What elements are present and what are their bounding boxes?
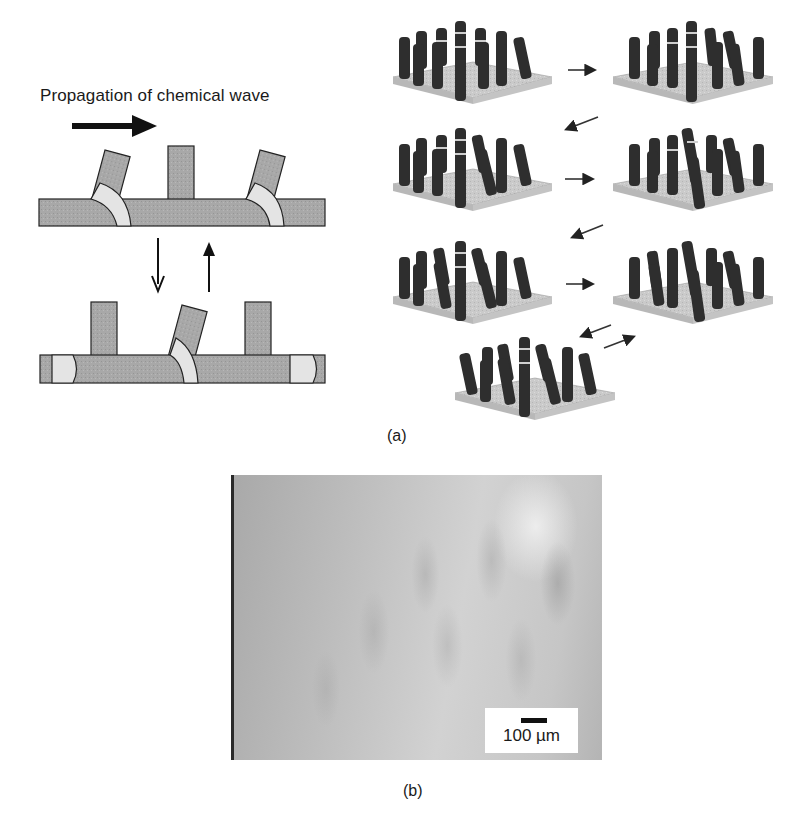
- pillar-array-2: [613, 21, 773, 104]
- pillar-array-4: [613, 127, 773, 211]
- panel-a-label: (a): [387, 427, 407, 445]
- bottom-state-schematic: [40, 302, 325, 383]
- scale-bar: [521, 718, 547, 723]
- top-state-schematic: [39, 146, 325, 226]
- scale-bar-label: 100 µm: [485, 726, 578, 746]
- pillar-array-3: [393, 128, 552, 211]
- arrow-down-left-3-icon: [582, 325, 611, 336]
- down-arrow-icon: [152, 238, 164, 291]
- up-arrow-icon: [203, 242, 215, 292]
- arrow-down-left-2-icon: [573, 225, 603, 237]
- pillar-array-7: [455, 337, 615, 420]
- pillar-array-5: [393, 241, 552, 324]
- arrow-down-left-1-icon: [567, 117, 598, 129]
- pillar-array-6: [613, 240, 773, 324]
- pillar-array-1: [393, 21, 552, 104]
- arrow-up-right-3-icon: [604, 337, 633, 348]
- panel-b-label: (b): [403, 782, 423, 800]
- schematic-diagram: [0, 0, 806, 470]
- propagation-arrow-icon: [72, 115, 157, 137]
